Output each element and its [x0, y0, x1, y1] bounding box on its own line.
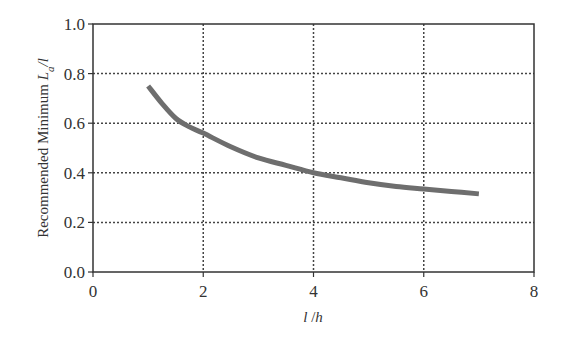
- x-tick-label: 2: [199, 282, 208, 301]
- chart: 02468 0.00.20.40.60.81.0 l /h Recommende…: [0, 0, 564, 338]
- x-tick-label: 6: [420, 282, 429, 301]
- y-axis-label-var: L: [35, 72, 51, 81]
- x-axis-label-var-h: h: [315, 309, 323, 325]
- y-tick-label: 0.0: [64, 263, 85, 282]
- y-tick-label: 1.0: [64, 15, 85, 34]
- y-tick-label: 0.6: [64, 114, 85, 133]
- y-axis-label-text: Recommended Minimum: [35, 80, 51, 237]
- y-tick-label: 0.8: [64, 65, 85, 84]
- ticks: [88, 24, 534, 277]
- x-tick-labels: 02468: [89, 282, 539, 301]
- y-tick-label: 0.2: [64, 213, 85, 232]
- x-tick-label: 4: [309, 282, 318, 301]
- x-axis-label: l /h: [303, 309, 323, 325]
- x-tick-label: 8: [530, 282, 539, 301]
- y-axis-label-tail: /l: [35, 58, 51, 67]
- y-tick-label: 0.4: [64, 164, 86, 183]
- y-tick-labels: 0.00.20.40.60.81.0: [64, 15, 86, 282]
- x-tick-label: 0: [89, 282, 98, 301]
- grid: [93, 24, 534, 272]
- y-axis-label: Recommended Minimum La/l: [35, 58, 56, 238]
